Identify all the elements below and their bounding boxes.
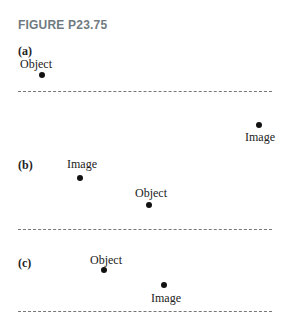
panel-c-mirror-line bbox=[18, 311, 272, 312]
panel-a-object-label: Object bbox=[20, 57, 52, 72]
panel-b-mirror-line bbox=[18, 229, 272, 230]
figure-title: FIGURE P23.75 bbox=[18, 18, 107, 32]
panel-c-object-label: Object bbox=[90, 253, 122, 268]
panel-c-label: (c) bbox=[18, 256, 31, 271]
panel-b-image-dot bbox=[77, 175, 83, 181]
panel-a-image-label: Image bbox=[245, 130, 275, 145]
panel-c-image-label: Image bbox=[151, 291, 181, 306]
panel-a-object-dot bbox=[39, 72, 45, 78]
panel-b-object-dot bbox=[146, 202, 152, 208]
panel-b-label: (b) bbox=[18, 158, 33, 173]
panel-a-mirror-line bbox=[18, 91, 272, 92]
panel-c-object-dot bbox=[101, 267, 107, 273]
panel-b-object-label: Object bbox=[135, 186, 167, 201]
panel-a-image-dot bbox=[256, 122, 262, 128]
panel-c-image-dot bbox=[161, 282, 167, 288]
panel-b-image-label: Image bbox=[67, 157, 97, 172]
